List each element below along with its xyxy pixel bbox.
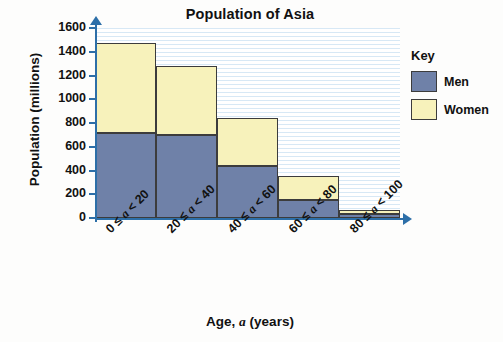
y-axis-tick [89, 27, 95, 29]
bar-segment-women [217, 118, 278, 166]
x-axis-arrow [403, 213, 412, 225]
legend-entry: Men [411, 71, 499, 92]
legend-label: Men [444, 75, 469, 89]
y-axis-tick-labels: 02004006008001000120014001600 [36, 0, 86, 342]
y-axis-tick [89, 193, 95, 195]
bar-segment-women [95, 43, 156, 132]
x-axis-label-variable: a [239, 314, 246, 329]
legend-swatch [411, 99, 437, 120]
bar-segment-women [156, 66, 217, 135]
y-axis-tick [89, 122, 95, 124]
chart-figure: Population of Asia Population (millions)… [0, 0, 503, 342]
y-axis-tick [89, 217, 95, 219]
y-axis-tick-label: 1600 [42, 20, 86, 34]
x-axis-label-post: (years) [246, 314, 294, 329]
y-axis-tick-label: 600 [42, 139, 86, 153]
y-axis-tick-label: 800 [42, 115, 86, 129]
y-axis-tick [89, 170, 95, 172]
y-axis-tick [89, 98, 95, 100]
y-axis-arrow [90, 16, 102, 25]
legend-entry: Women [411, 99, 499, 120]
x-axis-label: Age, a (years) [110, 314, 390, 330]
y-axis-tick-label: 1200 [42, 68, 86, 82]
y-axis-tick-label: 400 [42, 163, 86, 177]
y-axis-tick-label: 1000 [42, 91, 86, 105]
y-axis-tick-label: 1400 [42, 44, 86, 58]
y-axis-line [95, 24, 97, 222]
y-axis-tick-label: 200 [42, 186, 86, 200]
chart-title: Population of Asia [130, 6, 370, 22]
bar-column [95, 28, 156, 218]
x-axis-label-pre: Age, [206, 314, 239, 329]
legend-entries: MenWomen [411, 71, 499, 120]
legend: Key MenWomen [411, 48, 499, 127]
y-axis-tick-label: 0 [42, 210, 86, 224]
legend-swatch [411, 71, 437, 92]
legend-title: Key [411, 48, 499, 63]
y-axis-tick [89, 51, 95, 53]
y-axis-tick [89, 146, 95, 148]
y-axis-tick [89, 75, 95, 77]
legend-label: Women [444, 103, 489, 117]
